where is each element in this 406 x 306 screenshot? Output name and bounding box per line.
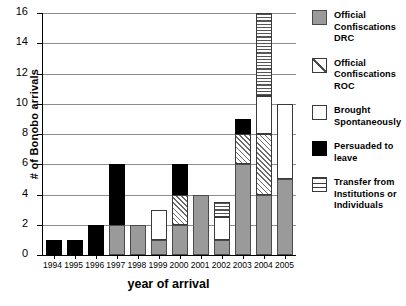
stacked-bar[interactable] <box>193 195 209 256</box>
bar-segment-lines[interactable] <box>214 202 230 217</box>
chart-figure: # of Bonobo arrivals 0246810121416 19941… <box>0 0 406 306</box>
legend-item[interactable]: Persuaded to leave <box>312 141 406 164</box>
y-axis-tick-label: 12 <box>0 66 28 78</box>
bar-slot <box>106 13 127 255</box>
bar-series-group <box>43 13 296 255</box>
stacked-bar[interactable] <box>277 104 293 255</box>
bar-segment-black[interactable] <box>88 225 104 255</box>
legend-swatch-black <box>312 141 327 156</box>
x-axis-tick-label: 1996 <box>84 260 105 270</box>
x-axis-tick <box>117 255 118 259</box>
bar-segment-roc[interactable] <box>235 134 251 164</box>
bar-segment-black[interactable] <box>67 240 83 255</box>
x-axis-tick <box>54 255 55 259</box>
bar-segment-drc[interactable] <box>277 179 293 255</box>
legend-label: Brought Spontaneously <box>334 105 406 128</box>
bar-segment-white[interactable] <box>214 217 230 240</box>
stacked-bar[interactable] <box>172 164 188 255</box>
plot-area: 0246810121416 <box>42 13 296 256</box>
bar-segment-black[interactable] <box>172 164 188 194</box>
y-axis-tick-label: 6 <box>0 156 28 168</box>
bar-segment-drc[interactable] <box>235 164 251 255</box>
legend-label: Transfer from Institutions or Individual… <box>334 177 406 212</box>
x-axis-tick-label: 2004 <box>253 260 274 270</box>
x-axis-tick-label: 1995 <box>63 260 84 270</box>
bar-segment-roc[interactable] <box>172 195 188 225</box>
legend-item[interactable]: Official Confiscations DRC <box>312 10 406 45</box>
y-axis-tick-label: 0 <box>0 247 28 259</box>
bar-segment-drc[interactable] <box>130 225 146 255</box>
y-axis-tick-label: 8 <box>0 126 28 138</box>
x-axis-tick <box>96 255 97 259</box>
x-axis-tick <box>180 255 181 259</box>
legend-label: Persuaded to leave <box>334 141 406 164</box>
bar-segment-black[interactable] <box>109 164 125 225</box>
bar-segment-lines[interactable] <box>256 13 272 96</box>
bar-slot <box>275 13 296 255</box>
legend-swatch-lines <box>312 177 327 192</box>
bar-slot <box>64 13 85 255</box>
x-axis-tick <box>75 255 76 259</box>
stacked-bar[interactable] <box>130 225 146 255</box>
legend-swatch-drc <box>312 10 327 25</box>
bar-segment-black[interactable] <box>235 119 251 134</box>
stacked-bar[interactable] <box>46 240 62 255</box>
stacked-bar[interactable] <box>214 202 230 255</box>
x-axis-tick <box>138 255 139 259</box>
x-axis-tick-label: 2001 <box>190 260 211 270</box>
bar-segment-drc[interactable] <box>151 240 167 255</box>
y-axis-tick-label: 2 <box>0 217 28 229</box>
y-axis-tick-label: 10 <box>0 96 28 108</box>
x-axis-title: year of arrival <box>42 277 295 291</box>
bar-slot <box>127 13 148 255</box>
y-axis-tick-label: 14 <box>0 35 28 47</box>
x-axis-tick-label: 1998 <box>126 260 147 270</box>
bar-slot <box>85 13 106 255</box>
x-axis-tick <box>285 255 286 259</box>
legend-swatch-white <box>312 105 327 120</box>
stacked-bar[interactable] <box>256 13 272 255</box>
bar-slot <box>148 13 169 255</box>
legend-label: Official Confiscations DRC <box>334 10 406 45</box>
bar-segment-white[interactable] <box>277 104 293 180</box>
x-axis-tick-label: 1994 <box>42 260 63 270</box>
bar-segment-drc[interactable] <box>256 195 272 256</box>
x-axis-tick-label: 2002 <box>211 260 232 270</box>
legend-item[interactable]: Brought Spontaneously <box>312 105 406 128</box>
bar-segment-black[interactable] <box>46 240 62 255</box>
legend-label: Official Confiscations ROC <box>334 58 406 93</box>
bar-segment-drc[interactable] <box>109 225 125 255</box>
bar-segment-roc[interactable] <box>256 134 272 195</box>
bar-slot <box>233 13 254 255</box>
x-axis-tick-label: 1997 <box>105 260 126 270</box>
stacked-bar[interactable] <box>235 119 251 255</box>
x-axis-tick <box>201 255 202 259</box>
stacked-bar[interactable] <box>109 164 125 255</box>
y-axis-tick-label: 4 <box>0 187 28 199</box>
y-axis-tick: 0 <box>37 255 43 256</box>
y-axis-title: # of Bonobo arrivals <box>28 34 40 214</box>
x-axis-tick-label: 2005 <box>274 260 295 270</box>
stacked-bar[interactable] <box>88 225 104 255</box>
bar-segment-white[interactable] <box>256 96 272 134</box>
x-axis-tick <box>222 255 223 259</box>
bar-slot <box>212 13 233 255</box>
x-axis-tick <box>159 255 160 259</box>
bar-slot <box>43 13 64 255</box>
bar-segment-white[interactable] <box>151 210 167 240</box>
stacked-bar[interactable] <box>151 210 167 255</box>
y-axis-tick-label: 16 <box>0 5 28 17</box>
x-axis-tick-label: 1999 <box>147 260 168 270</box>
chart-legend: Official Confiscations DRCOfficial Confi… <box>312 10 406 225</box>
legend-swatch-roc <box>312 58 327 73</box>
bar-segment-drc[interactable] <box>214 240 230 255</box>
bar-segment-drc[interactable] <box>193 195 209 256</box>
x-axis-tick <box>243 255 244 259</box>
x-axis-tick-label: 2003 <box>232 260 253 270</box>
legend-item[interactable]: Official Confiscations ROC <box>312 58 406 93</box>
bar-segment-drc[interactable] <box>172 225 188 255</box>
bar-slot <box>191 13 212 255</box>
legend-item[interactable]: Transfer from Institutions or Individual… <box>312 177 406 212</box>
bar-slot <box>170 13 191 255</box>
stacked-bar[interactable] <box>67 240 83 255</box>
